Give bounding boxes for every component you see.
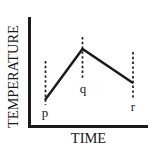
x-axis-title: TIME <box>29 129 148 147</box>
point-label-q: q <box>76 82 90 95</box>
temperature-time-chart: TEMPERATURE TIME p q r <box>0 0 152 153</box>
y-axis-title: TEMPERATURE <box>3 18 23 128</box>
point-label-p: p <box>38 106 52 119</box>
point-label-r: r <box>126 100 140 113</box>
